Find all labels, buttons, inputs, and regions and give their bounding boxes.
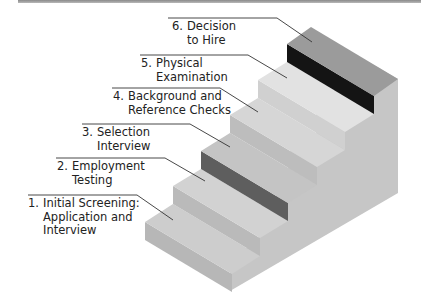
step-label-line1: Background and [128, 89, 222, 103]
step-6-label: 6.Decision to Hire [172, 20, 236, 47]
step-label-line1: Selection [97, 125, 150, 139]
step-label-line1: Initial Screening: [43, 196, 140, 210]
step-3-label: 3.Selection Interview [82, 126, 150, 153]
step-2-label: 2.Employment Testing [57, 160, 145, 187]
step-label-line2: Testing [57, 174, 145, 188]
step-label-line1: Employment [72, 159, 145, 173]
step-number: 3. [82, 126, 97, 140]
step-label-line1: Physical [156, 56, 203, 70]
step-1-label: 1.Initial Screening: Application and Int… [28, 197, 140, 238]
step-number: 2. [57, 160, 72, 174]
step-label-line2: Examination [141, 71, 228, 85]
step-label-line2: Application and [28, 211, 140, 225]
step-5-label: 5.Physical Examination [141, 57, 228, 84]
step-number: 4. [113, 90, 128, 104]
step-number: 6. [172, 20, 187, 34]
step-label-line2: Interview [82, 140, 150, 154]
step-label-line2: to Hire [172, 34, 236, 48]
step-label-line1: Decision [187, 19, 236, 33]
step-label-line3: Interview [28, 224, 140, 238]
step-number: 5. [141, 57, 156, 71]
step-4-label: 4.Background and Reference Checks [113, 90, 231, 117]
step-label-line2: Reference Checks [113, 104, 231, 118]
step-number: 1. [28, 197, 43, 211]
